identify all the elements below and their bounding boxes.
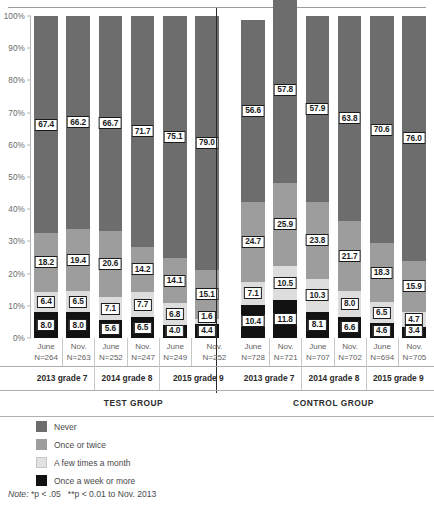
period-row: JuneN=264Nov.N=263JuneN=252Nov.N=247June… (30, 338, 430, 366)
bar-value-label: 11.8 (274, 313, 296, 325)
grade-cell: 2015 grade 9 (366, 366, 430, 390)
period-month: June (37, 341, 54, 352)
bar-value-label: 8.0 (340, 298, 358, 310)
stacked-bar: 70.618.36.54.6 (370, 16, 394, 338)
bar-value-label: 4.4 (198, 325, 216, 337)
y-axis-tick-label: 10% (8, 301, 25, 310)
period-sample-size: N=249 (163, 352, 187, 363)
bar-value-label: 56.6 (242, 105, 265, 117)
period-sample-size: N=247 (131, 352, 155, 363)
bar-value-label: 14.2 (131, 263, 154, 275)
legend-label: A few times a month (54, 458, 131, 468)
bar-value-label: 8.0 (37, 319, 55, 331)
period-cell: JuneN=707 (301, 338, 333, 366)
stacked-bar: 67.418.26.48.0 (34, 16, 58, 338)
legend-swatch-week (36, 475, 47, 486)
period-cell: JuneN=728 (237, 338, 269, 366)
bar-value-label: 57.9 (306, 103, 329, 115)
group-label: CONTROL GROUP (237, 390, 430, 416)
bar-value-label: 71.7 (131, 125, 154, 137)
period-sample-size: N=263 (67, 352, 91, 363)
stacked-bar: 66.219.46.58.0 (66, 16, 90, 338)
period-cell: Nov.N=247 (127, 338, 159, 366)
stacked-bar: 71.714.27.76.5 (131, 16, 155, 338)
group-label: TEST GROUP (30, 390, 237, 416)
period-cell: JuneN=264 (30, 338, 62, 366)
legend-label: Once a week or more (54, 476, 135, 486)
period-month: Nov. (135, 341, 151, 352)
stacked-bar: 56.624.77.110.4 (241, 16, 265, 338)
y-axis-tick-label: 40% (8, 205, 25, 214)
bar-value-label: 6.5 (133, 322, 151, 334)
grade-cell: 2014 grade 8 (94, 366, 158, 390)
y-axis-tick-label: 100% (4, 12, 25, 21)
bar-value-label: 18.3 (370, 267, 393, 279)
bar-value-label: 79.0 (196, 137, 219, 149)
grade-row: 2013 grade 72014 grade 82015 grade 92013… (30, 366, 430, 390)
period-sample-size: N=705 (403, 352, 427, 363)
bar-value-label: 6.4 (37, 296, 55, 308)
bar-value-label: 3.4 (405, 325, 423, 337)
period-month: June (167, 341, 184, 352)
period-cell: JuneN=249 (159, 338, 191, 366)
bar-value-label: 19.4 (67, 254, 90, 266)
grade-cell: 2015 grade 9 (159, 366, 237, 390)
period-cell: Nov.N=263 (62, 338, 94, 366)
chart-footer: JuneN=264Nov.N=263JuneN=252Nov.N=247June… (30, 338, 430, 416)
legend-item-week[interactable]: Once a week or more (36, 473, 135, 488)
period-cell: Nov.N=702 (334, 338, 366, 366)
grade-cell: 2013 grade 7 (237, 366, 301, 390)
bar-value-label: 25.9 (274, 218, 297, 230)
bar-value-label: 8.1 (308, 319, 326, 331)
legend-item-never[interactable]: Never (36, 419, 135, 434)
stacked-bar: 75.114.16.84.0 (163, 16, 187, 338)
y-axis-labels: 100%90%80%70%60%50%40%30%20%10%0% (0, 16, 28, 338)
bar-value-label: 66.2 (67, 116, 90, 128)
period-cell: Nov.N=252 (191, 338, 237, 366)
y-axis-tick-label: 20% (8, 269, 25, 278)
stacked-bar: 57.923.810.38.1 (306, 16, 330, 338)
footnote-prefix: Note: (8, 489, 29, 499)
bar-value-label: 1.6 (198, 311, 216, 323)
bar-value-label: 10.3 (306, 289, 329, 301)
bar-value-label: 63.8 (338, 112, 361, 124)
period-month: Nov. (278, 341, 294, 352)
period-sample-size: N=721 (274, 352, 298, 363)
bar-value-label: 4.0 (166, 325, 184, 337)
bar-value-label: 10.4 (242, 315, 265, 327)
period-month: June (102, 341, 119, 352)
plot-area: 67.418.26.48.066.219.46.58.066.720.67.15… (30, 16, 430, 338)
y-axis-tick-label: 50% (8, 173, 25, 182)
stacked-bar: 57.825.910.511.8 (273, 16, 297, 338)
period-month: June (244, 341, 261, 352)
group-row: TEST GROUPCONTROL GROUP (30, 390, 430, 416)
bar-value-label: 6.5 (69, 296, 87, 308)
period-month: June (374, 341, 391, 352)
stacked-bar: 66.720.67.15.6 (99, 16, 123, 338)
bar-value-label: 21.7 (338, 250, 361, 262)
period-month: Nov. (206, 341, 222, 352)
period-sample-size: N=702 (338, 352, 362, 363)
legend-swatch-twice (36, 439, 47, 450)
footnote-body-1: *p < .05 (31, 489, 61, 499)
period-sample-size: N=252 (203, 352, 227, 363)
bar-value-label: 4.6 (373, 325, 391, 337)
bar-value-label: 7.7 (133, 299, 151, 311)
bar-value-label: 8.0 (69, 319, 87, 331)
bar-value-label: 7.1 (244, 287, 262, 299)
legend-item-twice[interactable]: Once or twice (36, 437, 135, 452)
bar-value-label: 75.1 (163, 131, 186, 143)
bar-value-label: 6.6 (340, 321, 358, 333)
y-axis-tick-label: 0% (13, 334, 25, 343)
legend-item-month[interactable]: A few times a month (36, 455, 135, 470)
bar-value-label: 15.1 (196, 288, 219, 300)
period-cell: Nov.N=705 (398, 338, 430, 366)
chart-root: 100%90%80%70%60%50%40%30%20%10%0% 67.418… (0, 0, 434, 507)
bar-value-label: 10.5 (274, 277, 297, 289)
period-cell: JuneN=694 (366, 338, 398, 366)
grade-cell: 2013 grade 7 (30, 366, 94, 390)
bar-value-label: 6.8 (166, 308, 184, 320)
bar-value-label: 7.1 (101, 303, 119, 315)
period-sample-size: N=694 (370, 352, 394, 363)
bar-value-label: 20.6 (99, 258, 122, 270)
